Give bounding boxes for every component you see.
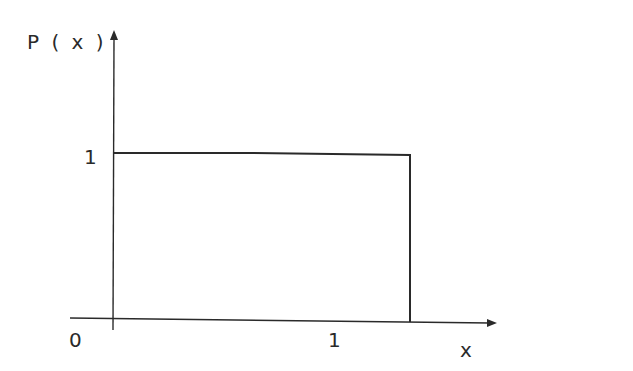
y-axis-label: P ( x ) — [27, 32, 107, 52]
density-curve — [114, 153, 410, 322]
x-axis — [70, 318, 490, 323]
y-tick-label-1: 1 — [84, 147, 97, 167]
chart-plot-area — [0, 0, 633, 371]
y-axis-arrow-icon — [110, 30, 118, 40]
x-axis-label: x — [460, 340, 472, 360]
x-tick-label-1: 1 — [328, 330, 341, 350]
x-axis-arrow-icon — [487, 319, 497, 327]
y-axis — [113, 38, 114, 330]
x-tick-label-0: 0 — [69, 330, 82, 350]
